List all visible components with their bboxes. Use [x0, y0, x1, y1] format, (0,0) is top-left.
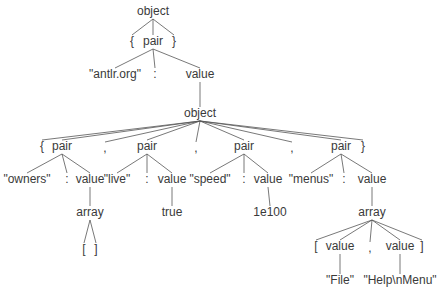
tree-node-array: array: [76, 205, 103, 219]
tree-node-true: true: [162, 205, 183, 219]
tree-edge: [153, 49, 155, 68]
tree-edge: [372, 220, 422, 240]
tree-node-pair: pair: [234, 139, 254, 153]
tree-node-punct: {: [40, 139, 44, 153]
tree-node-live: "live": [104, 172, 131, 186]
tree-edge: [244, 154, 268, 173]
tree-node-help-nmenu: "Help\nMenu": [363, 273, 436, 287]
tree-node-pair: pair: [137, 139, 157, 153]
tree-node-array: array: [358, 205, 385, 219]
tree-edge: [316, 220, 372, 240]
tree-edge: [132, 19, 153, 35]
tree-node-value: value: [186, 67, 215, 81]
tree-node-object: object: [184, 106, 217, 120]
tree-node-1e100: 1e100: [253, 205, 287, 219]
tree-edge: [341, 154, 372, 173]
tree-edge: [341, 154, 344, 173]
tree-edge: [200, 121, 363, 140]
tree-node-value: value: [254, 172, 283, 186]
tree-node-punct: {: [130, 34, 134, 48]
tree-node-value: value: [326, 239, 355, 253]
tree-node-menus: "menus": [289, 172, 334, 186]
tree-node-owners: "owners": [3, 172, 50, 186]
tree-edge: [27, 154, 62, 173]
tree-node-punct: ,: [194, 141, 197, 155]
tree-edge: [147, 154, 172, 173]
tree-edge: [84, 220, 90, 243]
tree-edge: [311, 154, 341, 173]
tree-node-value: value: [358, 172, 387, 186]
tree-node-punct: :: [242, 172, 245, 186]
tree-edge: [42, 121, 200, 140]
tree-edge: [153, 49, 200, 68]
tree-node-value: value: [76, 172, 105, 186]
tree-node-object: object: [137, 4, 170, 18]
tree-edge: [115, 49, 153, 68]
tree-node-value: value: [386, 239, 415, 253]
tree-node-punct: ]: [94, 242, 97, 256]
tree-node-punct: :: [342, 172, 345, 186]
tree-node-speed: "speed": [189, 172, 230, 186]
tree-node-pair: pair: [52, 139, 72, 153]
tree-node-punct: :: [153, 67, 156, 81]
tree-edge: [196, 121, 200, 142]
tree-node-punct: }: [172, 34, 176, 48]
tree-edge: [372, 220, 400, 240]
tree-nodes: object{pair}"antlr.org":valueobject{pair…: [3, 4, 436, 287]
tree-node-punct: :: [65, 172, 68, 186]
tree-node-pair: pair: [331, 139, 351, 153]
tree-node-value: value: [158, 172, 187, 186]
tree-node-punct: :: [145, 172, 148, 186]
tree-node-punct: ,: [290, 141, 293, 155]
tree-edge: [370, 220, 372, 242]
tree-edge: [153, 19, 174, 35]
tree-node-punct: ,: [368, 241, 371, 255]
tree-edge: [210, 154, 244, 173]
tree-node-punct: [: [314, 239, 318, 253]
tree-edge: [268, 187, 270, 206]
tree-edge: [62, 121, 200, 140]
tree-node-punct: ]: [420, 239, 423, 253]
tree-node-file: "File": [326, 273, 354, 287]
tree-node-pair: pair: [143, 34, 163, 48]
parse-tree: object{pair}"antlr.org":valueobject{pair…: [0, 0, 438, 298]
tree-node-punct: [: [82, 242, 86, 256]
tree-edge: [90, 220, 96, 243]
tree-edge: [117, 154, 147, 173]
tree-node-antlr-org: "antlr.org": [89, 67, 141, 81]
tree-node-punct: }: [361, 139, 365, 153]
tree-node-punct: ,: [103, 141, 106, 155]
